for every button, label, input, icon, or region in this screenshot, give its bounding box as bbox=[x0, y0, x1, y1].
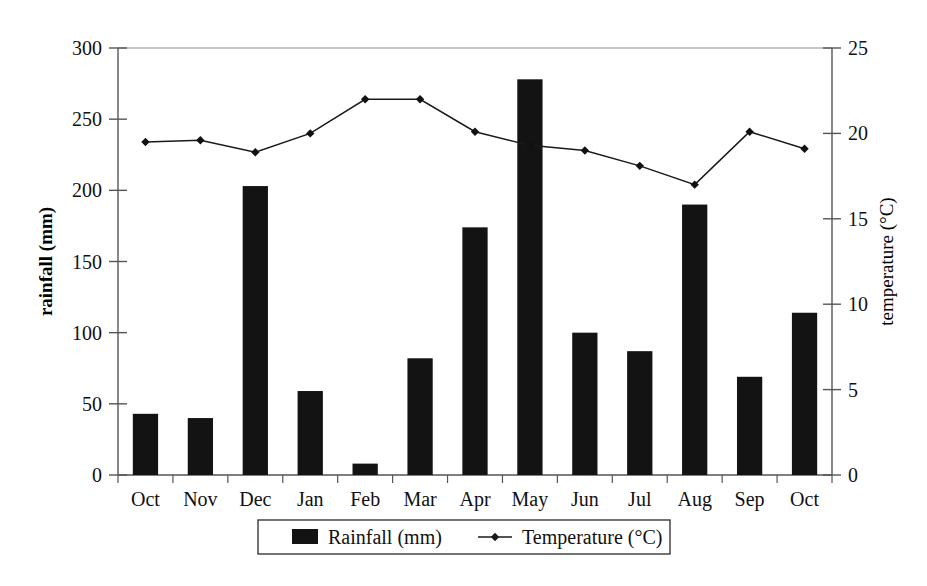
temperature-marker-1 bbox=[196, 136, 204, 144]
temperature-marker-9 bbox=[636, 162, 644, 170]
temperature-marker-6 bbox=[471, 127, 479, 135]
bar-jul-9 bbox=[627, 351, 652, 475]
legend-label-temperature: Temperature (°C) bbox=[522, 526, 662, 549]
legend-label-rainfall: Rainfall (mm) bbox=[328, 526, 442, 549]
temperature-marker-4 bbox=[361, 95, 369, 103]
left-axis-tick-label: 250 bbox=[72, 108, 102, 130]
bar-jan-3 bbox=[298, 391, 323, 475]
bar-sep-11 bbox=[737, 377, 762, 475]
bar-aug-10 bbox=[682, 205, 707, 475]
bar-oct-12 bbox=[792, 313, 817, 475]
chart-canvas: 0501001502002503000510152025OctNovDecJan… bbox=[0, 0, 927, 586]
legend-swatch-rainfall bbox=[292, 529, 318, 544]
y-axis-title: rainfall (mm) bbox=[35, 207, 57, 316]
temperature-marker-2 bbox=[251, 148, 259, 156]
category-label: Feb bbox=[350, 488, 380, 510]
bar-may-7 bbox=[517, 79, 542, 475]
left-axis-tick-label: 0 bbox=[92, 464, 102, 486]
temperature-marker-3 bbox=[306, 129, 314, 137]
temperature-marker-12 bbox=[800, 145, 808, 153]
temperature-marker-0 bbox=[141, 138, 149, 146]
right-axis-tick-label: 5 bbox=[848, 379, 858, 401]
bar-dec-2 bbox=[243, 186, 268, 475]
y2-axis-title: temperature (°C) bbox=[876, 197, 898, 325]
category-label: Mar bbox=[403, 488, 437, 510]
temperature-line bbox=[145, 99, 804, 184]
bar-oct-0 bbox=[133, 414, 158, 475]
category-label: Oct bbox=[131, 488, 160, 510]
right-axis-tick-label: 20 bbox=[848, 122, 868, 144]
category-label: Jan bbox=[297, 488, 324, 510]
left-axis-tick-label: 200 bbox=[72, 179, 102, 201]
bar-jun-8 bbox=[572, 333, 597, 475]
right-axis-tick-label: 15 bbox=[848, 208, 868, 230]
right-axis-tick-label: 10 bbox=[848, 293, 868, 315]
bar-mar-5 bbox=[407, 358, 432, 475]
rainfall-temperature-chart: 0501001502002503000510152025OctNovDecJan… bbox=[0, 0, 927, 586]
right-axis-tick-label: 0 bbox=[848, 464, 858, 486]
category-label: May bbox=[512, 488, 549, 511]
right-axis-tick-label: 25 bbox=[848, 37, 868, 59]
category-label: Aug bbox=[677, 488, 711, 511]
temperature-marker-8 bbox=[581, 146, 589, 154]
bar-feb-4 bbox=[353, 464, 378, 475]
bar-nov-1 bbox=[188, 418, 213, 475]
left-axis-tick-label: 150 bbox=[72, 251, 102, 273]
left-axis-tick-label: 100 bbox=[72, 322, 102, 344]
category-label: Jul bbox=[628, 488, 652, 510]
left-axis-tick-label: 300 bbox=[72, 37, 102, 59]
temperature-marker-5 bbox=[416, 95, 424, 103]
category-label: Nov bbox=[183, 488, 217, 510]
bar-apr-6 bbox=[462, 227, 487, 475]
category-label: Dec bbox=[239, 488, 271, 510]
left-axis-tick-label: 50 bbox=[82, 393, 102, 415]
category-label: Jun bbox=[571, 488, 599, 510]
category-label: Sep bbox=[735, 488, 765, 511]
category-label: Apr bbox=[459, 488, 490, 511]
category-label: Oct bbox=[790, 488, 819, 510]
